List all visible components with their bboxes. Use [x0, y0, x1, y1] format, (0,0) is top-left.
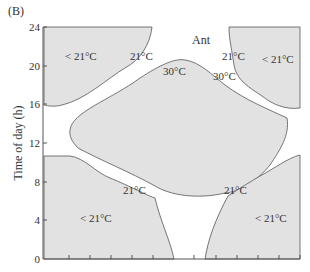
region-label-top-right: < 21°C	[262, 53, 294, 65]
chart-title: Ant	[192, 33, 211, 47]
contour-chart: 0 4 8 12 16 20 24 Time of day (h) Ant < …	[0, 0, 310, 272]
region-label-top-left: < 21°C	[65, 50, 97, 62]
ytick-label: 16	[29, 98, 41, 110]
ytick-label: 12	[29, 137, 40, 149]
region-label-bottom-right: < 21°C	[255, 212, 287, 224]
ytick-label: 24	[29, 21, 41, 33]
contour-label-top-right: 21°C	[222, 50, 245, 62]
contour-label-bottom-left: 21°C	[123, 184, 146, 196]
region-label-bottom-left: < 21°C	[80, 212, 112, 224]
ytick-label: 8	[35, 176, 41, 188]
ytick-label: 0	[35, 253, 41, 265]
y-axis-label: Time of day (h)	[11, 105, 25, 180]
contour-label-center-right: 30°C	[213, 70, 236, 82]
contour-label-top-left: 21°C	[130, 50, 153, 62]
ytick-label: 20	[29, 60, 41, 72]
contour-label-center-left: 30°C	[163, 65, 186, 77]
contour-label-bottom-right: 21°C	[224, 184, 247, 196]
ytick-label: 4	[35, 214, 41, 226]
